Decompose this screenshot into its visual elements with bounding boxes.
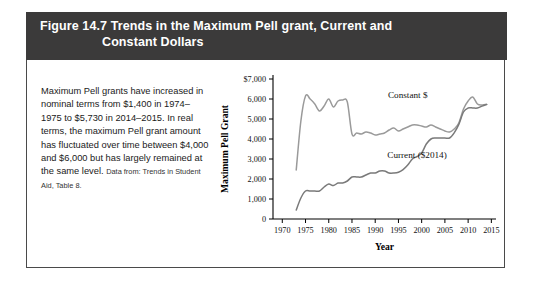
x-tick-label: 1990	[367, 226, 383, 235]
caption-body: Maximum Pell grants have increased in no…	[41, 86, 208, 176]
y-tick-label: 1,000	[248, 195, 266, 204]
figure-body: Maximum Pell grants have increased in no…	[27, 61, 504, 267]
line-chart: 01,0002,0003,0004,0005,0006,000$7,000197…	[215, 67, 501, 267]
y-tick-label: 2,000	[248, 175, 266, 184]
x-tick-label: 2015	[483, 226, 499, 235]
figure-card: Figure 14.7 Trends in the Maximum Pell g…	[26, 12, 505, 268]
figure-title-line-2: Constant Dollars	[40, 35, 495, 51]
figure-header: Figure 14.7 Trends in the Maximum Pell g…	[26, 12, 507, 60]
y-tick-label: $7,000	[243, 75, 266, 84]
chart-canvas: 01,0002,0003,0004,0005,0006,000$7,000197…	[215, 67, 501, 267]
x-tick-label: 2010	[460, 226, 476, 235]
x-tick-label: 1970	[274, 226, 290, 235]
x-axis-title: Year	[375, 241, 395, 252]
x-tick-label: 2000	[413, 226, 429, 235]
y-tick-label: 0	[262, 215, 266, 224]
series-label-current-2014: Current ($2014)	[387, 150, 446, 160]
x-tick-label: 1975	[297, 226, 313, 235]
figure-caption: Maximum Pell grants have increased in no…	[41, 85, 209, 192]
series-label-constant: Constant $	[388, 90, 428, 100]
y-tick-label: 3,000	[248, 155, 266, 164]
figure-title-line-1: Figure 14.7 Trends in the Maximum Pell g…	[40, 19, 495, 35]
x-tick-label: 1985	[344, 226, 360, 235]
x-tick-label: 1980	[321, 226, 337, 235]
y-tick-label: 4,000	[248, 135, 266, 144]
y-axis-title: Maximum Pell Grant	[219, 104, 230, 193]
y-tick-label: 6,000	[248, 95, 266, 104]
x-tick-label: 2005	[437, 226, 453, 235]
y-tick-label: 5,000	[248, 115, 266, 124]
x-tick-label: 1995	[390, 226, 406, 235]
